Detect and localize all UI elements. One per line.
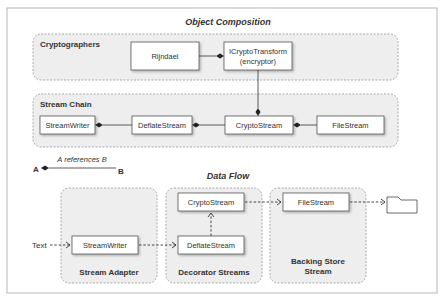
svg-text:CryptoStream: CryptoStream xyxy=(188,198,234,207)
flow-streamwriter-box: StreamWriter xyxy=(72,236,138,254)
legend-description: A references B xyxy=(56,155,106,164)
chain-filestream-box: FileStream xyxy=(317,116,384,134)
svg-text:Decorator Streams: Decorator Streams xyxy=(178,268,250,277)
object-composition-title: Object Composition xyxy=(185,17,271,27)
cryptographers-label: Cryptographers xyxy=(40,40,101,49)
legend-a: A xyxy=(33,165,39,174)
chain-cryptostream-box: CryptoStream xyxy=(225,116,293,134)
stream-adapter-group: Stream Adapter xyxy=(61,188,157,283)
svg-text:DeflateStream: DeflateStream xyxy=(138,121,186,130)
text-input-label: Text xyxy=(32,241,47,250)
legend-b: B xyxy=(118,167,124,176)
svg-text:FileStream: FileStream xyxy=(332,121,368,130)
svg-text:StreamWriter: StreamWriter xyxy=(45,121,90,130)
svg-text:FileStream: FileStream xyxy=(298,198,334,207)
data-flow-title: Data Flow xyxy=(207,171,251,181)
svg-text:Stream: Stream xyxy=(304,267,331,276)
svg-text:ICryptoTransform: ICryptoTransform xyxy=(229,47,287,56)
svg-text:Rijndael: Rijndael xyxy=(151,52,178,61)
icryptotransform-box: ICryptoTransform (encryptor) xyxy=(224,42,292,70)
rijndael-box: Rijndael xyxy=(131,42,199,70)
stream-chain-label: Stream Chain xyxy=(40,100,92,109)
flow-cryptostream-box: CryptoStream xyxy=(178,193,244,211)
svg-text:CryptoStream: CryptoStream xyxy=(236,121,282,130)
chain-streamwriter-box: StreamWriter xyxy=(40,116,95,134)
svg-text:StreamWriter: StreamWriter xyxy=(83,241,128,250)
chain-deflatestream-box: DeflateStream xyxy=(132,116,192,134)
svg-text:Stream Adapter: Stream Adapter xyxy=(79,268,138,277)
svg-text:(encryptor): (encryptor) xyxy=(240,57,277,66)
svg-text:DeflateStream: DeflateStream xyxy=(187,241,235,250)
flow-deflatestream-box: DeflateStream xyxy=(178,236,244,254)
cryptographers-group: Cryptographers xyxy=(33,34,398,80)
diagram-canvas: Object Composition Cryptographers Rijnda… xyxy=(0,0,448,301)
svg-text:Backing Store: Backing Store xyxy=(291,257,345,266)
flow-filestream-box: FileStream xyxy=(283,193,349,211)
